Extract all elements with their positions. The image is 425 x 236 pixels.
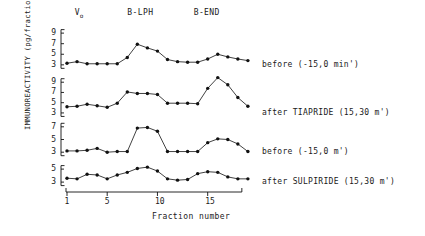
data-point	[236, 177, 239, 180]
data-point	[196, 102, 199, 105]
chromatography-figure: IMMUNOREACTIVITY (pg/fraction) 3579befor…	[0, 0, 425, 236]
data-point	[126, 56, 129, 59]
panel-after-sulpiride-line	[67, 167, 248, 180]
data-point	[116, 173, 119, 176]
data-point	[156, 169, 159, 172]
data-point	[95, 147, 98, 150]
data-point	[95, 62, 98, 65]
data-point	[126, 90, 129, 93]
x-tick-label: 5	[105, 197, 110, 206]
data-point	[136, 43, 139, 46]
data-point	[106, 150, 109, 153]
data-point	[176, 102, 179, 105]
data-point	[196, 172, 199, 175]
y-tick-label: 7	[44, 87, 56, 96]
panel-before-15-0-min	[65, 43, 249, 66]
data-point	[75, 60, 78, 63]
y-tick-label: 9	[44, 28, 56, 37]
data-point	[186, 60, 189, 63]
panel-after-tiapride-axis-bracket	[61, 79, 65, 117]
data-point	[226, 175, 229, 178]
data-point	[116, 102, 119, 105]
data-point	[236, 57, 239, 60]
data-point	[166, 58, 169, 61]
panel-before-15-0-min-line	[67, 44, 248, 64]
y-tick-label: 7	[44, 39, 56, 48]
panel-after-sulpiride-axis-bracket	[61, 166, 65, 186]
data-point	[246, 105, 249, 108]
data-point	[116, 62, 119, 65]
data-point	[246, 59, 249, 62]
data-point	[146, 92, 149, 95]
data-point	[95, 173, 98, 176]
data-point	[85, 62, 88, 65]
data-point	[85, 149, 88, 152]
data-point	[216, 76, 219, 79]
data-point	[176, 60, 179, 63]
data-point	[176, 178, 179, 181]
y-tick-label: 5	[44, 98, 56, 107]
panel-after-tiapride-line	[67, 78, 248, 108]
data-point	[166, 150, 169, 153]
data-point	[246, 150, 249, 153]
x-tick-label: 1	[65, 197, 70, 206]
y-tick-label: 5	[44, 49, 56, 58]
data-point	[216, 53, 219, 56]
x-tick-label: 15	[205, 197, 215, 206]
data-point	[65, 105, 68, 108]
data-point	[206, 170, 209, 173]
data-point	[65, 149, 68, 152]
data-point	[206, 87, 209, 90]
data-point	[75, 149, 78, 152]
panel-after-sulpiride-label: after SULPIRIDE (15,30 m')	[262, 177, 395, 186]
data-point	[156, 93, 159, 96]
y-tick-label: 5	[44, 135, 56, 144]
data-point	[136, 92, 139, 95]
data-point	[176, 150, 179, 153]
y-tick-label: 3	[44, 177, 56, 186]
y-tick-label: 5	[44, 164, 56, 173]
data-point	[196, 150, 199, 153]
data-point	[206, 57, 209, 60]
data-point	[146, 46, 149, 49]
x-axis-title: Fraction number	[152, 212, 230, 221]
data-point	[106, 177, 109, 180]
data-point	[226, 138, 229, 141]
data-point	[85, 173, 88, 176]
data-point	[236, 142, 239, 145]
data-point	[126, 171, 129, 174]
data-point	[246, 177, 249, 180]
data-point	[166, 102, 169, 105]
data-point	[156, 49, 159, 52]
x-tick-label: 10	[155, 197, 165, 206]
data-point	[85, 103, 88, 106]
data-point	[136, 167, 139, 170]
data-point	[136, 126, 139, 129]
data-point	[166, 177, 169, 180]
data-point	[75, 105, 78, 108]
data-point	[146, 165, 149, 168]
subscript: o	[80, 12, 84, 19]
beta-end-marker: B-END	[194, 8, 220, 17]
data-point	[156, 130, 159, 133]
data-point	[126, 150, 129, 153]
data-point	[95, 104, 98, 107]
data-point	[75, 177, 78, 180]
data-point	[186, 102, 189, 105]
data-point	[226, 83, 229, 86]
data-point	[196, 60, 199, 63]
panel-before-15-0-m	[65, 126, 249, 154]
data-point	[226, 55, 229, 58]
data-point	[186, 150, 189, 153]
beta-lph-marker: B-LPH	[127, 8, 153, 17]
data-point	[216, 171, 219, 174]
y-tick-label: 3	[44, 108, 56, 117]
data-point	[186, 178, 189, 181]
data-point	[65, 62, 68, 65]
data-point	[146, 126, 149, 129]
y-tick-label: 3	[44, 60, 56, 69]
panel-before-15-0-min-label: before (-15,0 min')	[262, 60, 359, 69]
y-tick-label: 9	[44, 77, 56, 86]
panel-before-15-0-min-axis-bracket	[61, 30, 65, 69]
y-tick-label: 7	[44, 122, 56, 131]
